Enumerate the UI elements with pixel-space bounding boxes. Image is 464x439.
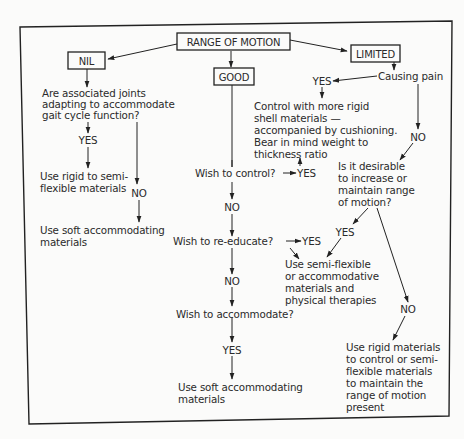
shared-result-line: or accommodative [285, 270, 379, 282]
nil-no-result-line: Use soft accommodating [40, 224, 165, 236]
limited-no-result-line: range of motion [346, 389, 426, 401]
good-q1-yes: YES [296, 167, 316, 179]
limited-yes-result-line: accompanied by cushioning. [254, 124, 397, 136]
limited-yes-result-line: thickness ratio [254, 148, 327, 160]
nil-question-line: gait cycle function? [42, 109, 139, 121]
limited-no-result-line: to maintain the [346, 377, 423, 389]
nil-node: NIL [68, 52, 105, 69]
nil-yes-result-line: flexible materials [40, 182, 126, 194]
limited-no-result-line: Use rigid materials [346, 341, 440, 353]
limited-label: LIMITED [356, 49, 396, 60]
limited-q2-line: of motion? [338, 196, 391, 208]
root-node: RANGE OF MOTION [177, 33, 290, 50]
good-result-line: materials [178, 393, 225, 405]
limited-no-result-line: flexible materials [346, 365, 432, 377]
good-q1: Wish to control? [195, 167, 275, 179]
limited-question: Causing pain [378, 70, 443, 82]
limited-yes-label: YES [312, 75, 332, 87]
good-node: GOOD [214, 68, 254, 85]
flowchart: RANGE OF MOTION NIL GOOD LIMITED Are ass… [0, 0, 464, 439]
nil-yes-label: YES [78, 134, 98, 146]
good-label: GOOD [219, 72, 250, 83]
limited-yes-result-line: Control with more rigid [254, 100, 369, 112]
limited-no-result-line: to control or semi- [346, 353, 438, 365]
limited-q2-no: NO [400, 303, 416, 315]
shared-result-line: Use semi-flexible [285, 258, 371, 270]
good-q3: Wish to accommodate? [176, 308, 294, 320]
nil-no-label: NO [131, 187, 147, 199]
shared-result-line: physical therapies [285, 294, 376, 306]
good-q3-yes: YES [222, 344, 242, 356]
limited-yes-result-line: Bear in mind weight to [254, 136, 368, 148]
limited-no-label: NO [410, 131, 426, 143]
good-q2: Wish to re-educate? [173, 235, 273, 247]
limited-no-result-line: present [346, 401, 384, 413]
root-label: RANGE OF MOTION [187, 37, 281, 48]
good-q2-yes: YES [301, 235, 321, 247]
limited-yes-result-line: shell materials — [254, 112, 341, 124]
limited-q2-line: maintain range [338, 184, 415, 196]
limited-q2-line: Is it desirable [338, 160, 405, 172]
shared-result-line: materials and [285, 282, 354, 294]
limited-node: LIMITED [351, 45, 400, 62]
limited-branch: Causing pain YES Control with more rigid… [254, 70, 443, 413]
good-result-line: Use soft accommodating [178, 381, 303, 393]
limited-q2-yes: YES [335, 226, 355, 238]
nil-no-result-line: materials [40, 236, 87, 248]
nil-yes-result-line: Use rigid to semi- [40, 170, 128, 182]
nil-label: NIL [79, 56, 95, 67]
nil-branch: Are associated joints adapting to accomm… [40, 87, 175, 248]
limited-q2-line: to increase or [338, 172, 408, 184]
good-q2-no: NO [224, 275, 240, 287]
good-q1-no: NO [224, 201, 240, 213]
